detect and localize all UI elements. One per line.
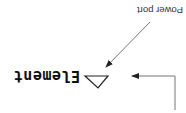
element-label: Element — [13, 67, 80, 85]
diagram-canvas: Power port Element — [0, 0, 186, 113]
power-port-label: Power port — [137, 5, 183, 16]
elbow-arrow — [132, 76, 175, 110]
triangle-symbol-icon — [85, 76, 108, 88]
connector-lines — [0, 0, 186, 113]
power-port-arrow — [106, 22, 150, 67]
